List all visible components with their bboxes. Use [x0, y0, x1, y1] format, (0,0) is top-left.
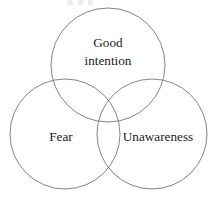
venn-diagram-figure: Good intention Fear Unawareness	[0, 0, 216, 202]
venn-label-good-intention-line1: Good	[93, 35, 123, 50]
venn-label-unawareness: Unawareness	[123, 129, 193, 144]
venn-diagram-canvas: Good intention Fear Unawareness	[0, 0, 216, 202]
venn-label-fear: Fear	[49, 129, 73, 144]
venn-label-good-intention-line2: intention	[85, 53, 132, 68]
